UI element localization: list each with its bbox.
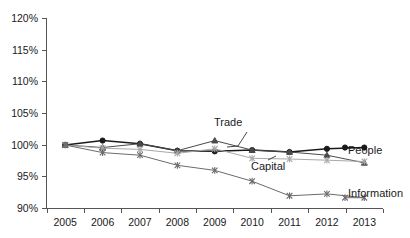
series-layer — [62, 138, 367, 202]
x-tick-label: 2005 — [54, 216, 78, 228]
y-tick-label: 90% — [17, 202, 38, 214]
x-tick-label: 2008 — [166, 216, 190, 228]
data-point-people-2012 — [324, 146, 329, 151]
y-tick-label: 120% — [11, 12, 38, 24]
y-axis-labels: 120% 115% 110% 105% 100% 95% 90% — [11, 12, 38, 214]
annotation-leaders — [227, 132, 276, 160]
line-chart: 120% 115% 110% 105% 100% 95% 90% 2005200… — [0, 0, 410, 238]
y-tick-label: 115% — [12, 44, 38, 56]
data-point-trade-2009 — [212, 138, 218, 143]
x-tick-label: 2006 — [91, 216, 115, 228]
data-point-people-2006 — [100, 138, 105, 143]
x-tick-label: 2013 — [353, 216, 377, 228]
annotation-trade: Trade — [214, 116, 242, 128]
x-axis-labels: 200520062007200820092010201120122013 — [54, 216, 377, 228]
annotation-capital: Capital — [251, 160, 285, 172]
y-tick-label: 100% — [11, 139, 38, 151]
x-tick-label: 2011 — [278, 216, 301, 228]
x-tick-label: 2007 — [128, 216, 152, 228]
legend-label-people: People — [348, 144, 382, 156]
legend-label-information: Information — [348, 187, 403, 199]
legend-marker-people — [342, 145, 347, 150]
y-tick-label: 110% — [12, 75, 38, 87]
y-tick-label: 95% — [17, 170, 38, 182]
chart-canvas: 120% 115% 110% 105% 100% 95% 90% 2005200… — [0, 0, 410, 238]
data-point-information-2010 — [249, 178, 255, 185]
x-tick-marks — [48, 209, 384, 213]
y-tick-label: 105% — [11, 107, 38, 119]
x-tick-label: 2009 — [203, 216, 227, 228]
x-tick-label: 2010 — [240, 216, 264, 228]
y-tick-marks — [42, 19, 47, 209]
x-tick-label: 2012 — [315, 216, 339, 228]
